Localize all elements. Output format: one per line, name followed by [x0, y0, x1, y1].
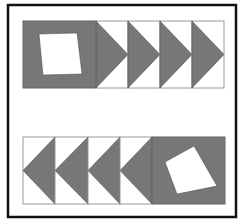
pattern-diagram [0, 0, 245, 223]
top-row-white-quad [39, 33, 82, 75]
